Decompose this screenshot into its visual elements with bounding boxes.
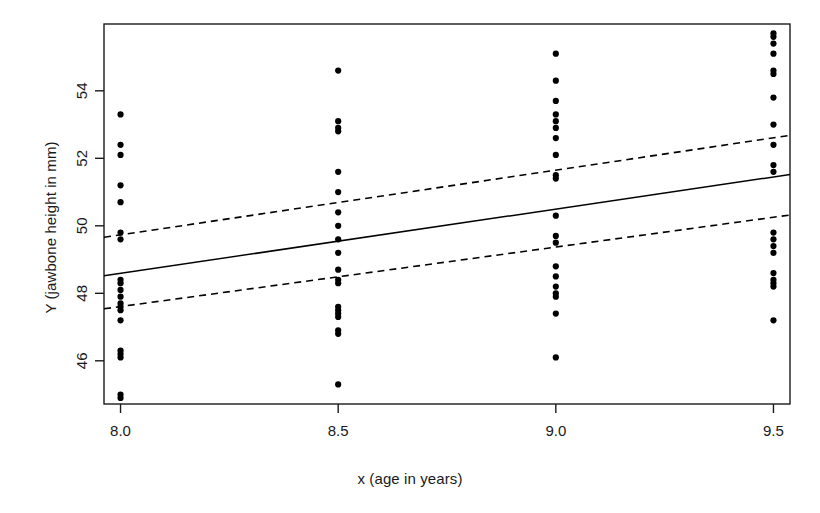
- data-point: [770, 243, 776, 249]
- data-point: [117, 395, 123, 401]
- data-point: [553, 175, 559, 181]
- data-point: [553, 213, 559, 219]
- data-point: [117, 111, 123, 117]
- data-point: [335, 118, 341, 124]
- data-point: [117, 280, 123, 286]
- x-axis-ticks: 8.08.59.09.5: [110, 404, 784, 439]
- data-point: [770, 317, 776, 323]
- data-point: [117, 182, 123, 188]
- x-axis-label: x (age in years): [0, 470, 820, 487]
- data-point: [335, 250, 341, 256]
- data-point: [770, 121, 776, 127]
- y-tick-label: 52: [73, 150, 90, 167]
- data-point: [553, 354, 559, 360]
- data-point: [770, 40, 776, 46]
- data-point: [335, 189, 341, 195]
- data-point: [553, 310, 559, 316]
- data-point: [770, 229, 776, 235]
- data-point: [335, 381, 341, 387]
- data-point: [770, 250, 776, 256]
- data-point: [553, 78, 559, 84]
- data-point: [770, 162, 776, 168]
- data-point: [335, 67, 341, 73]
- data-point: [117, 304, 123, 310]
- data-point: [117, 142, 123, 148]
- plot-frame: [104, 24, 790, 404]
- upper-confidence-band-path: [104, 135, 790, 237]
- y-tick-label: 46: [73, 352, 90, 369]
- data-point: [335, 267, 341, 273]
- data-point: [553, 118, 559, 124]
- data-point: [117, 152, 123, 158]
- x-tick-label: 9.5: [763, 422, 784, 439]
- fit-and-confidence-lines: [104, 135, 790, 308]
- data-point: [335, 314, 341, 320]
- data-point: [335, 128, 341, 134]
- data-point: [117, 229, 123, 235]
- data-point: [117, 354, 123, 360]
- y-axis-ticks: 4648505254: [73, 82, 104, 369]
- data-point: [770, 71, 776, 77]
- data-point: [553, 111, 559, 117]
- data-point: [117, 317, 123, 323]
- data-point: [770, 34, 776, 40]
- data-point: [553, 125, 559, 131]
- data-point: [117, 236, 123, 242]
- x-tick-label: 8.0: [110, 422, 131, 439]
- data-point: [335, 209, 341, 215]
- data-point: [553, 51, 559, 57]
- x-tick-label: 9.0: [545, 422, 566, 439]
- data-point: [117, 294, 123, 300]
- data-point: [553, 273, 559, 279]
- data-point: [335, 223, 341, 229]
- x-tick-label: 8.5: [328, 422, 349, 439]
- y-tick-label: 50: [73, 217, 90, 234]
- plot-canvas: 8.08.59.09.5 4648505254: [0, 0, 820, 513]
- y-tick-label: 48: [73, 285, 90, 302]
- data-point: [553, 240, 559, 246]
- data-point: [553, 152, 559, 158]
- fitted-regression-line-path: [104, 175, 790, 276]
- y-tick-label: 54: [73, 82, 90, 99]
- lower-confidence-band-path: [104, 215, 790, 309]
- data-point: [553, 263, 559, 269]
- data-point: [770, 169, 776, 175]
- data-point: [770, 236, 776, 242]
- data-point: [770, 283, 776, 289]
- data-point: [117, 199, 123, 205]
- data-point: [335, 169, 341, 175]
- data-points: [117, 30, 776, 401]
- data-point: [553, 135, 559, 141]
- data-point: [553, 294, 559, 300]
- data-point: [553, 233, 559, 239]
- data-point: [553, 98, 559, 104]
- data-point: [335, 331, 341, 337]
- data-point: [553, 283, 559, 289]
- data-point: [117, 287, 123, 293]
- data-point: [335, 236, 341, 242]
- data-point: [770, 270, 776, 276]
- data-point: [770, 142, 776, 148]
- data-point: [770, 94, 776, 100]
- data-point: [335, 280, 341, 286]
- scatter-plot-figure: 8.08.59.09.5 4648505254 x (age in years)…: [0, 0, 820, 513]
- data-point: [770, 51, 776, 57]
- y-axis-label: Y (jawbone height in mm): [42, 88, 59, 368]
